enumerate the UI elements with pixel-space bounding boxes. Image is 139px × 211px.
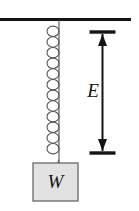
weight-label: W xyxy=(48,171,66,192)
physics-figure: E W xyxy=(0,0,139,211)
extension-label: E xyxy=(86,80,99,101)
figure-canvas: E W xyxy=(0,0,139,211)
